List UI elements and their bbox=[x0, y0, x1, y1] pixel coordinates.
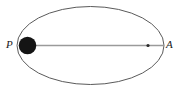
perihelion-label: P bbox=[6, 39, 13, 50]
central-body-circle bbox=[19, 37, 37, 55]
aphelion-label: A bbox=[166, 39, 173, 50]
focus-dot-marker bbox=[146, 44, 149, 47]
orbit-diagram-canvas bbox=[0, 0, 181, 92]
orbit-diagram-figure: P A bbox=[0, 0, 181, 92]
